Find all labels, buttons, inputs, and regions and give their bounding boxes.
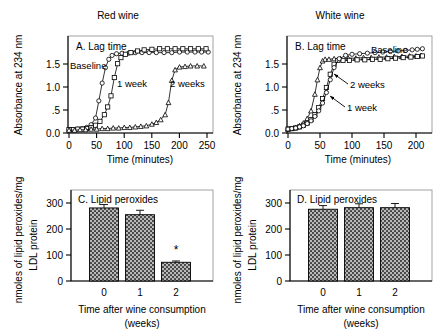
data-point (420, 47, 424, 51)
panel-d-bars-group (309, 204, 410, 281)
panel-a-xtick-0: 0 (66, 140, 72, 151)
data-point (328, 78, 332, 82)
bar-group (345, 204, 374, 281)
panel-b-white-wine: White wine 0.0 .5 1.0 1.5 0 50 1 (232, 10, 432, 165)
panel-b-arrow-1week-icon (330, 96, 345, 107)
panel-b-xtick-4: 200 (408, 140, 425, 151)
data-point (149, 122, 154, 127)
data-point (312, 92, 317, 97)
data-point (415, 54, 419, 58)
data-point (370, 57, 374, 61)
bar-group (309, 206, 338, 281)
panel-d-lipid-peroxides-white: 0 100 200 300 D. Lipid peroxides 0 1 2 T… (232, 177, 432, 329)
panel-d-xlabel-units: (weeks) (343, 318, 378, 329)
bar (162, 262, 191, 281)
bar (381, 208, 410, 281)
data-point (401, 56, 405, 60)
panel-a-annotation-2weeks: 2 weeks (170, 78, 205, 89)
panel-c-ytick-1: 100 (46, 250, 63, 261)
data-point (106, 105, 110, 109)
bar (126, 215, 155, 281)
significance-marker: * (174, 243, 179, 257)
panel-c-ylabel: nmoles of lipid peroxides/mg (13, 177, 24, 304)
data-point (116, 62, 120, 66)
data-point (409, 55, 413, 59)
panel-b-ytick-3: 1.5 (265, 59, 279, 70)
data-point (100, 81, 104, 85)
panel-b-xtick-0: 0 (285, 140, 291, 151)
data-point (112, 75, 116, 79)
data-point (119, 56, 123, 60)
data-point (309, 119, 313, 123)
bar-group (126, 210, 155, 281)
panel-b-ytick-0: 0.0 (265, 128, 279, 139)
panel-b-xtick-2: 100 (344, 140, 361, 151)
panel-a-xtick-5: 250 (199, 140, 216, 151)
error-bar (319, 206, 327, 210)
data-point (166, 100, 171, 105)
data-point (313, 114, 317, 118)
panel-a-ylabel: Absorbance at 234 nm (13, 35, 24, 136)
data-point (142, 48, 146, 52)
data-point (129, 51, 133, 55)
panel-b-annotation-baseline: Baseline (371, 44, 407, 55)
bar-group (90, 205, 119, 281)
panel-a-red-wine: Red wine 0.0 .5 1.0 1.5 (13, 10, 216, 165)
panel-b-arrow-2weeks-icon (334, 74, 348, 84)
data-point (173, 67, 178, 72)
panel-d-xtick-1: 1 (356, 287, 362, 298)
data-point (173, 47, 177, 51)
panel-d-ylabel-line2: LDL protein (247, 219, 258, 270)
data-point (163, 112, 168, 117)
data-point (386, 57, 390, 61)
panel-b-annotation-2weeks: 2 weeks (350, 79, 385, 90)
bar (90, 208, 119, 281)
panel-b-annotation-1week: 1 week (347, 102, 377, 113)
panel-d-ytick-0: 0 (276, 276, 282, 287)
data-point (415, 47, 419, 51)
data-point (165, 47, 169, 51)
data-point (410, 48, 414, 52)
figure-panel-group: Red wine 0.0 .5 1.0 1.5 (0, 0, 445, 334)
panel-a-xtick-2: 100 (116, 140, 133, 151)
data-point (135, 49, 139, 53)
data-point (158, 47, 162, 51)
data-point (350, 52, 354, 56)
panel-d-xtick-0: 0 (320, 287, 326, 298)
data-point (150, 47, 154, 51)
panel-d-y-ticks (285, 203, 290, 281)
panel-c-ytick-2: 200 (46, 224, 63, 235)
error-bar (391, 204, 399, 208)
data-point (324, 90, 328, 94)
panel-b-title: White wine (316, 10, 365, 21)
data-point (344, 53, 348, 57)
data-point (181, 47, 185, 51)
panel-a-y-ticks (63, 64, 68, 133)
data-point (332, 65, 336, 69)
panel-a-xtick-1: 50 (91, 140, 103, 151)
data-point (98, 119, 102, 123)
data-point (347, 58, 351, 62)
panel-c-xlabel-units: (weeks) (124, 318, 159, 329)
data-point (365, 51, 369, 55)
panel-d-label: D. Lipid peroxides (297, 194, 377, 205)
panel-b-ytick-1: .5 (271, 105, 280, 116)
data-point (378, 57, 382, 61)
panel-c-ytick-0: 0 (57, 276, 63, 287)
panel-d-ytick-1: 100 (265, 250, 282, 261)
panel-c-xlabel: Time after wine consumption (78, 304, 205, 315)
panel-a-xtick-4: 200 (171, 140, 188, 151)
data-point (107, 57, 111, 61)
panel-a-xtick-3: 150 (143, 140, 160, 151)
data-point (110, 53, 114, 57)
data-point (196, 47, 200, 51)
panel-c-label: C. Lipid peroxides (78, 194, 158, 205)
data-point (420, 54, 424, 58)
panel-a-title: Red wine (97, 10, 139, 21)
panel-c-xtick-1: 1 (137, 287, 143, 298)
data-point (318, 65, 323, 70)
bar-group (381, 204, 410, 281)
panel-c-xtick-0: 0 (101, 287, 107, 298)
bar-group: * (162, 243, 191, 281)
figure-svg: Red wine 0.0 .5 1.0 1.5 (0, 0, 445, 334)
